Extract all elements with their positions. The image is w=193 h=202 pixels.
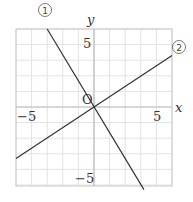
series-line-1 bbox=[47, 29, 144, 190]
y-axis-label: y bbox=[86, 12, 95, 27]
series-1-number: 1 bbox=[42, 6, 48, 16]
series-1-marker: 1 bbox=[39, 4, 52, 17]
y-tick-label-neg5: −5 bbox=[75, 171, 94, 186]
x-tick-label-neg5: −5 bbox=[17, 109, 36, 124]
y-tick-label-5: 5 bbox=[83, 36, 91, 51]
origin-label: O bbox=[82, 92, 93, 107]
x-tick-label-5: 5 bbox=[153, 109, 161, 124]
series-2-marker: 2 bbox=[173, 41, 186, 54]
x-axis-label: x bbox=[175, 100, 183, 115]
coordinate-plane-chart: y x O −5 5 5 −5 1 2 bbox=[0, 0, 193, 202]
series-2-number: 2 bbox=[176, 43, 182, 53]
